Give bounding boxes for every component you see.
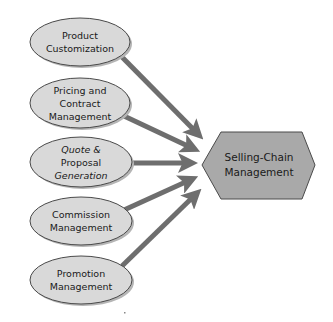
speck-artifact — [124, 312, 126, 314]
node-ellipse — [30, 256, 132, 304]
node-commission: Commission Management — [30, 197, 134, 247]
node-label-line1: Quote & — [61, 144, 100, 155]
node-ellipse — [30, 18, 130, 66]
node-label-line2: Customization — [46, 43, 114, 54]
node-quote-proposal: Quote & Proposal Generation — [30, 137, 134, 189]
node-label-line2: Management — [50, 281, 113, 292]
node-pricing-contract: Pricing and Contract Management — [30, 78, 132, 130]
node-promotion: Promotion Management — [30, 256, 134, 306]
node-ellipse — [30, 197, 132, 245]
hub-label-line1: Selling-Chain — [225, 151, 294, 163]
node-label-line1: Pricing and — [54, 85, 107, 96]
node-label-line2: Management — [50, 222, 113, 233]
node-label-line1: Product — [62, 30, 98, 41]
node-label-line1: Commission — [52, 209, 110, 220]
selling-chain-diagram: Product Customization Pricing and Contra… — [0, 0, 333, 322]
node-label-line3: Management — [49, 111, 112, 122]
arrow-commission — [124, 180, 190, 210]
node-label-line1: Promotion — [57, 268, 105, 279]
node-label-line3: Generation — [55, 170, 108, 181]
node-product-customization: Product Customization — [30, 18, 132, 68]
hub-selling-chain-management: Selling-Chain Management — [202, 132, 315, 199]
node-label-line2: Proposal — [61, 157, 101, 168]
hub-label-line2: Management — [224, 166, 293, 178]
node-label-line2: Contract — [60, 98, 101, 109]
